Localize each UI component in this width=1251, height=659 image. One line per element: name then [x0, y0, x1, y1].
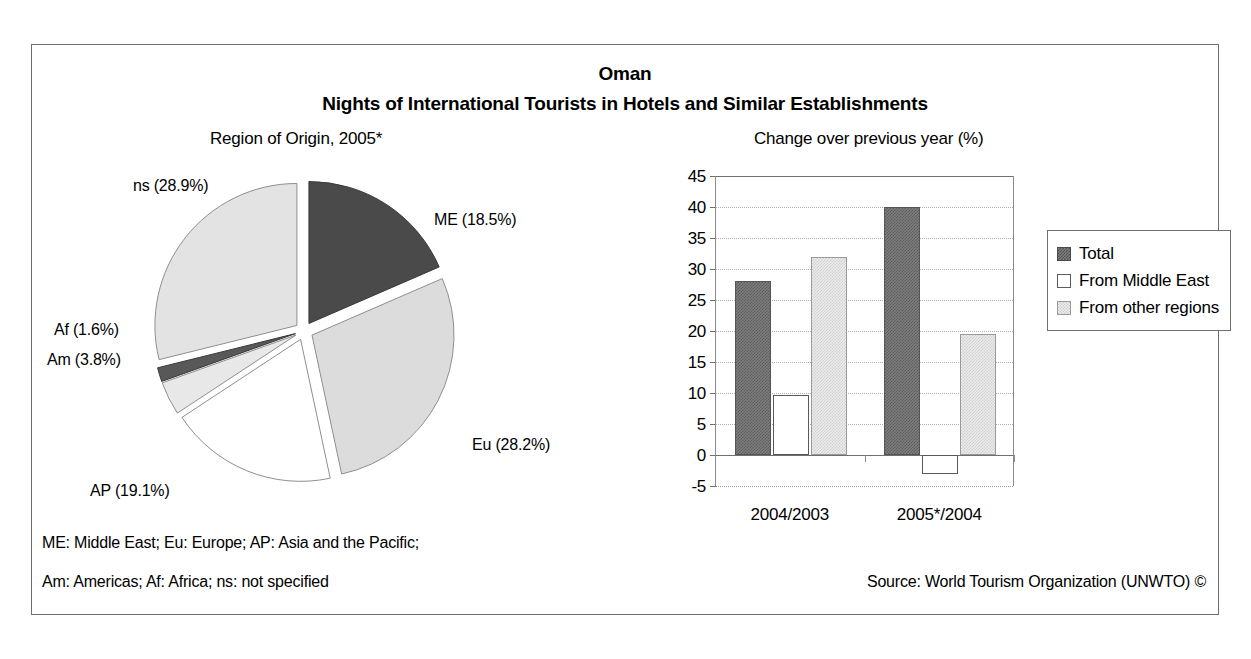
y-tick-label-40: 40 — [672, 199, 706, 216]
gridline-35 — [716, 238, 1013, 239]
y-tick-label-35: 35 — [672, 230, 706, 247]
gridline-45 — [716, 176, 1013, 177]
y-tick-label--5: -5 — [672, 478, 706, 495]
legend-swatch-other-regions — [1057, 301, 1071, 315]
x-category-label-0: 2004/2003 — [715, 505, 865, 525]
bar-total-1 — [884, 207, 920, 455]
bar-other-regions-1 — [960, 334, 996, 455]
y-tick-label-15: 15 — [672, 354, 706, 371]
bar-total-0 — [735, 281, 771, 455]
pie-chart-title: Region of Origin, 2005* — [210, 129, 382, 149]
bar-middle-east-1 — [922, 455, 958, 474]
y-tick-label-10: 10 — [672, 385, 706, 402]
bar-chart-title: Change over previous year (%) — [754, 129, 983, 149]
y-tick-label-0: 0 — [672, 447, 706, 464]
legend-swatch-middle-east — [1057, 274, 1071, 288]
legend-label-middle-east: From Middle East — [1079, 271, 1209, 291]
x-tick-mark-2 — [1014, 455, 1015, 462]
bar-chart-legend: TotalFrom Middle EastFrom other regions — [1047, 230, 1231, 331]
y-tick-label-25: 25 — [672, 292, 706, 309]
pie-chart-svg — [32, 155, 622, 515]
pie-label-ns: ns (28.9%) — [133, 177, 208, 195]
x-tick-mark-0 — [715, 455, 716, 462]
legend-item-middle-east: From Middle East — [1057, 267, 1219, 294]
y-tick-label-20: 20 — [672, 323, 706, 340]
bar-chart-plot-area — [715, 176, 1014, 486]
pie-slice-ns — [155, 183, 297, 359]
bar-middle-east-0 — [773, 395, 809, 455]
y-tick-label-5: 5 — [672, 416, 706, 433]
gridline-30 — [716, 269, 1013, 270]
gridline-40 — [716, 207, 1013, 208]
legend-label-other-regions: From other regions — [1079, 298, 1219, 318]
pie-label-ap: AP (19.1%) — [90, 482, 170, 500]
figure-frame: Oman Nights of International Tourists in… — [31, 44, 1219, 615]
y-tick-label-45: 45 — [672, 168, 706, 185]
pie-chart: ME (18.5%)Eu (28.2%)AP (19.1%)Am (3.8%)A… — [32, 155, 622, 515]
source-attribution: Source: World Tourism Organization (UNWT… — [867, 573, 1206, 591]
footnote-abbreviations-line-2: Am: Americas; Af: Africa; ns: not specif… — [42, 573, 329, 591]
bar-chart: 454035302520151050-5 2004/20032005*/2004… — [632, 155, 1220, 575]
page-subtitle: Nights of International Tourists in Hote… — [32, 93, 1218, 115]
legend-label-total: Total — [1079, 244, 1114, 264]
bar-other-regions-0 — [811, 257, 847, 455]
legend-swatch-total — [1057, 247, 1071, 261]
pie-label-me: ME (18.5%) — [434, 211, 516, 229]
pie-label-af: Af (1.6%) — [54, 321, 119, 339]
pie-label-eu: Eu (28.2%) — [472, 436, 550, 454]
legend-item-other-regions: From other regions — [1057, 294, 1219, 321]
y-tick-label-30: 30 — [672, 261, 706, 278]
gridline--5 — [716, 486, 1013, 487]
legend-item-total: Total — [1057, 240, 1219, 267]
footnote-abbreviations-line-1: ME: Middle East; Eu: Europe; AP: Asia an… — [42, 534, 419, 552]
page-title: Oman — [32, 63, 1218, 85]
x-tick-mark-1 — [865, 455, 866, 462]
x-category-label-1: 2005*/2004 — [865, 505, 1015, 525]
pie-label-am: Am (3.8%) — [47, 351, 121, 369]
